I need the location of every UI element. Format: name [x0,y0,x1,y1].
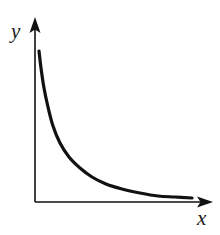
decay-curve [39,51,192,198]
x-axis-label: x [197,208,206,229]
figure-canvas: y x [0,0,220,235]
y-axis-label: y [11,21,20,42]
plot-svg [0,0,220,235]
